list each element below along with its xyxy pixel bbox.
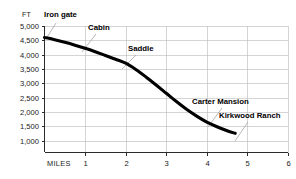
annotation-label-saddle: Saddle xyxy=(128,44,154,53)
y-axis-unit-label: FT xyxy=(22,11,31,18)
y-tick-label: 2,000 xyxy=(20,108,39,117)
y-tick-label: 3,500 xyxy=(20,65,39,74)
x-tick-label: 6 xyxy=(286,159,290,168)
leader-kirkwood-ranch xyxy=(235,122,248,141)
x-tick-label: 3 xyxy=(164,159,168,168)
x-axis-name-label: MILES xyxy=(47,159,71,168)
y-tick-label: 4,000 xyxy=(20,51,39,60)
annotation-label-carter-mansion: Carter Mansion xyxy=(192,97,249,106)
y-tick-label: 3,000 xyxy=(20,79,39,88)
y-tick-label: 1,500 xyxy=(20,122,39,131)
x-axis-ticks: 123456 xyxy=(83,153,290,169)
x-tick-label: 4 xyxy=(205,159,209,168)
x-tick-label: 1 xyxy=(83,159,87,168)
annotation-label-kirkwood-ranch: Kirkwood Ranch xyxy=(219,111,281,120)
x-tick-label: 2 xyxy=(124,159,128,168)
chart-canvas: 1,0001,5002,0002,5003,0003,5004,0004,500… xyxy=(0,0,296,179)
y-tick-label: 1,000 xyxy=(20,137,39,146)
gridlines xyxy=(45,26,289,153)
y-tick-label: 5,000 xyxy=(20,22,39,31)
y-tick-label: 2,500 xyxy=(20,94,39,103)
x-tick-label: 5 xyxy=(245,159,249,168)
annotation-label-iron-gate: Iron gate xyxy=(44,10,78,19)
annotation-label-cabin: Cabin xyxy=(88,23,110,32)
y-tick-label: 4,500 xyxy=(20,36,39,45)
y-axis-ticks: 1,0001,5002,0002,5003,0003,5004,0004,500… xyxy=(20,22,45,146)
elevation-profile-chart: 1,0001,5002,0002,5003,0003,5004,0004,500… xyxy=(0,0,296,179)
